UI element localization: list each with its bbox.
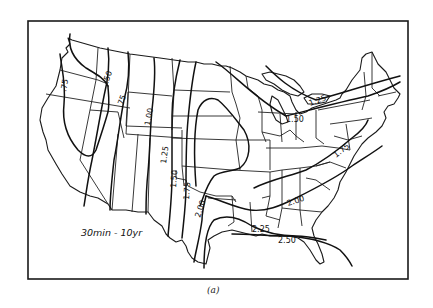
label-150-east: 1.50 bbox=[286, 115, 304, 124]
subfigure-label: (a) bbox=[207, 285, 220, 295]
label-125: 1.25 bbox=[159, 145, 170, 164]
label-200-east: 2.00 bbox=[286, 194, 306, 208]
label-075-west: .75 bbox=[59, 78, 70, 92]
label-075-east: .75 bbox=[115, 94, 128, 109]
label-175-east: 1.75 bbox=[332, 142, 352, 160]
isoline-175-loop bbox=[195, 98, 249, 206]
label-225: 2.25 bbox=[252, 225, 270, 234]
map-title: 30min - 10yr bbox=[81, 227, 143, 238]
label-150: 1.50 bbox=[169, 170, 179, 188]
map-frame bbox=[28, 21, 408, 279]
label-050: .50 bbox=[101, 70, 114, 85]
label-250: 2.50 bbox=[278, 236, 296, 245]
label-175-west: 1.75 bbox=[182, 182, 192, 200]
label-100: 1.00 bbox=[143, 107, 155, 126]
isoline-125-east bbox=[266, 66, 400, 100]
rainfall-isoline-map: .75 .50 .75 1.00 1.25 1.50 1.75 2.00 1.2… bbox=[0, 0, 433, 308]
label-200-west: 2.00 bbox=[193, 199, 207, 219]
isoline-175-east bbox=[254, 120, 368, 188]
